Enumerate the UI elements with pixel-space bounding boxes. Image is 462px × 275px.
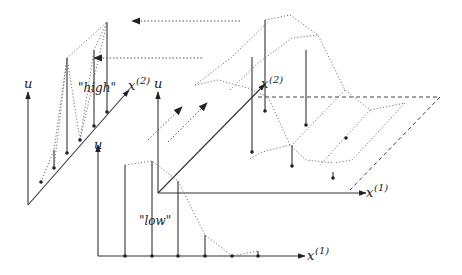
sample-dot (52, 166, 56, 170)
sample-dot (290, 164, 294, 168)
high-membership-profile (41, 22, 107, 182)
sample-dot (256, 254, 260, 258)
sample-dot (331, 176, 335, 180)
surface-x1-superscript: (1) (374, 182, 388, 193)
high-u-label: u (24, 76, 32, 91)
diagonal-arrow-right (168, 103, 207, 142)
sample-dot (304, 123, 308, 127)
projection-arrows-low (148, 103, 207, 142)
membership-surface (195, 15, 405, 165)
projection-arrows-high (94, 21, 240, 58)
sample-dot (65, 151, 69, 155)
surface-x1-label: x (366, 185, 374, 200)
high-x-label: x (128, 78, 136, 93)
high-quote-label: "high" (78, 81, 116, 95)
fuzzy-projection-diagram: u "high" x (2) u x (1) x (2) (0, 0, 462, 275)
sample-dot (150, 254, 154, 258)
sample-dot (250, 150, 254, 154)
low-u-label: u (94, 137, 102, 152)
low-x-label: x (307, 248, 315, 263)
low-x-superscript: (1) (315, 245, 329, 256)
base-plane (258, 97, 440, 190)
surface-axes: u x (1) x (2) (154, 74, 388, 200)
low-panel: u "low" x (1) (94, 137, 329, 263)
sample-dot (39, 180, 43, 184)
high-membership-profile-2 (54, 58, 67, 168)
high-panel: u "high" x (2) (24, 22, 150, 205)
sample-dot (92, 124, 96, 128)
high-x-superscript: (2) (136, 75, 150, 86)
high-x2-axis (28, 90, 129, 205)
sample-dot (344, 136, 348, 140)
surface-stems (250, 20, 348, 180)
low-quote-label: "low" (139, 214, 171, 228)
surface-x2-axis (158, 84, 265, 193)
sample-dot (176, 254, 180, 258)
high-top-edge (67, 22, 107, 58)
sample-dot (123, 254, 127, 258)
surface-u-label: u (154, 76, 162, 91)
surface-x2-superscript: (2) (269, 74, 283, 85)
sample-dot (78, 138, 82, 142)
sample-dot (203, 254, 207, 258)
low-membership-profile (125, 161, 258, 256)
diagonal-arrow-left (148, 107, 182, 140)
sample-dot (230, 254, 234, 258)
sample-dot (105, 110, 109, 114)
sample-dot (263, 109, 267, 113)
